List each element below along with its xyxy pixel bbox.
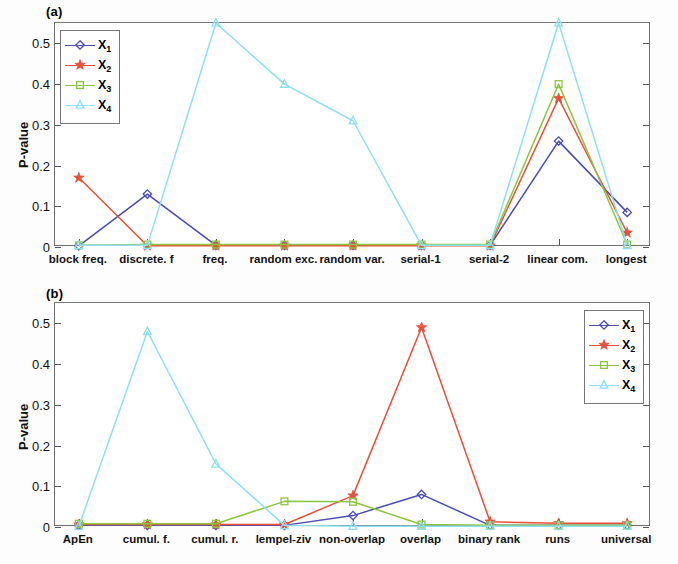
legend-label-X1: X1 xyxy=(622,319,635,332)
legend-item-X2[interactable]: X2 xyxy=(589,335,639,355)
square-marker xyxy=(77,82,84,89)
x-axis-category-label: random exc. xyxy=(250,253,318,265)
legend-swatch xyxy=(589,319,619,331)
x-axis-category-label: freq. xyxy=(202,253,227,265)
x-axis-category-label: ApEn xyxy=(63,533,93,545)
legend-label-X1: X1 xyxy=(98,39,111,52)
star-marker xyxy=(416,322,426,332)
x-axis-category-label: cumul. r. xyxy=(191,533,238,545)
legend-label-subscript: 2 xyxy=(106,64,111,74)
panel-b-ylabel: P-value xyxy=(16,404,31,450)
legend-swatch xyxy=(589,379,619,391)
legend-item-X4[interactable]: X4 xyxy=(589,375,639,395)
chart-panel-a: (a) P-value 00.10.20.30.40.5 block freq.… xyxy=(0,0,678,282)
legend-label-X4: X4 xyxy=(98,99,111,112)
y-axis-tick-mark xyxy=(643,527,649,528)
star-marker xyxy=(599,340,609,350)
legend-label-X3: X3 xyxy=(622,359,635,372)
legend-label-subscript: 1 xyxy=(630,324,635,334)
legend-label-X2: X2 xyxy=(622,339,635,352)
y-axis-tick-mark xyxy=(55,527,61,528)
y-axis-tick-label: 0.1 xyxy=(32,199,50,214)
series-layer xyxy=(55,23,651,247)
legend-label-subscript: 2 xyxy=(630,344,635,354)
legend-item-X3[interactable]: X3 xyxy=(589,355,639,375)
legend: X1X2X3X4 xyxy=(60,30,120,124)
legend-item-X3[interactable]: X3 xyxy=(65,75,115,95)
series-X4 xyxy=(75,19,631,249)
series-line xyxy=(79,141,627,246)
series-line xyxy=(79,23,627,245)
square-marker xyxy=(601,362,608,369)
x-axis-category-label: binary rank xyxy=(458,533,520,545)
plot-area-b: 00.10.20.30.40.5 xyxy=(54,302,650,526)
series-line xyxy=(79,84,627,245)
y-axis-tick-label: 0.5 xyxy=(32,36,50,51)
panel-a-tag: (a) xyxy=(46,4,63,19)
legend-swatch xyxy=(589,359,619,371)
triangle-marker xyxy=(600,381,608,389)
y-axis-tick-mark xyxy=(643,247,649,248)
legend-label-subscript: 3 xyxy=(106,84,111,94)
legend-swatch xyxy=(65,79,95,91)
figure-root: (a) P-value 00.10.20.30.40.5 block freq.… xyxy=(0,0,678,564)
legend-swatch xyxy=(65,59,95,71)
x-axis-category-label: runs xyxy=(545,533,570,545)
x-axis-category-label: non-overlap xyxy=(319,533,385,545)
legend-item-X1[interactable]: X1 xyxy=(589,315,639,335)
x-axis-category-label: block freq. xyxy=(49,253,107,265)
legend-item-X4[interactable]: X4 xyxy=(65,95,115,115)
y-axis-tick-label: 0.2 xyxy=(32,438,50,453)
y-axis-tick-label: 0.4 xyxy=(32,357,50,372)
x-axis-category-label: longest xyxy=(606,253,647,265)
y-axis-tick-label: 0.3 xyxy=(32,397,50,412)
legend-label-X2: X2 xyxy=(98,59,111,72)
legend-item-X2[interactable]: X2 xyxy=(65,55,115,75)
series-X1 xyxy=(75,137,632,250)
series-layer xyxy=(55,303,651,527)
diamond-marker xyxy=(600,321,608,329)
legend-item-X1[interactable]: X1 xyxy=(65,35,115,55)
x-axis-category-label: lempel-ziv xyxy=(256,533,312,545)
x-axis-category-label: random var. xyxy=(319,253,384,265)
legend-label-subscript: 3 xyxy=(630,364,635,374)
diamond-marker xyxy=(76,41,84,49)
legend-label-subscript: 1 xyxy=(106,44,111,54)
y-axis-tick-label: 0.3 xyxy=(32,117,50,132)
y-axis-tick-label: 0.2 xyxy=(32,158,50,173)
legend-label-X3: X3 xyxy=(98,79,111,92)
series-X3 xyxy=(75,498,630,529)
legend-label-subscript: 4 xyxy=(106,104,111,114)
legend-label-X4: X4 xyxy=(622,379,635,392)
legend-label-subscript: 4 xyxy=(630,384,635,394)
legend: X1X2X3X4 xyxy=(584,310,644,404)
star-marker xyxy=(75,60,85,70)
panel-b-tag: (b) xyxy=(46,286,63,301)
plot-area-a: 00.10.20.30.40.5 xyxy=(54,22,650,246)
series-X4 xyxy=(75,327,631,529)
x-axis-category-label: discrete. f xyxy=(119,253,173,265)
y-axis-tick-label: 0.1 xyxy=(32,479,50,494)
y-axis-tick-mark xyxy=(55,247,61,248)
x-axis-category-label: overlap xyxy=(400,533,441,545)
triangle-marker xyxy=(76,101,84,109)
x-axis-category-label: cumul. f. xyxy=(123,533,170,545)
x-axis-category-label: serial-1 xyxy=(400,253,440,265)
legend-swatch xyxy=(65,99,95,111)
y-axis-tick-label: 0 xyxy=(43,520,50,535)
panel-a-ylabel: P-value xyxy=(16,122,31,168)
y-axis-tick-label: 0.5 xyxy=(32,316,50,331)
chart-panel-b: (b) P-value 00.10.20.30.40.5 ApEncumul. … xyxy=(0,282,678,564)
x-axis-category-label: serial-2 xyxy=(469,253,509,265)
series-X3 xyxy=(75,81,630,249)
legend-swatch xyxy=(589,339,619,351)
y-axis-tick-label: 0.4 xyxy=(32,77,50,92)
x-axis-category-label: universal xyxy=(601,533,652,545)
legend-swatch xyxy=(65,39,95,51)
x-axis-category-label: linear com. xyxy=(527,253,588,265)
